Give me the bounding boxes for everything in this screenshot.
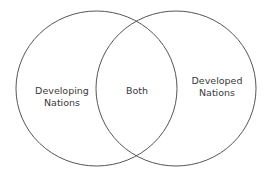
both-label: Both [126,85,148,96]
developed-label-line2: Nations [199,87,235,98]
developed-label-line1: Developed [192,75,243,86]
developing-label-line1: Developing [35,85,89,96]
venn-diagram: Developing Nations Both Developed Nation… [0,0,265,176]
developing-label-line2: Nations [44,97,80,108]
